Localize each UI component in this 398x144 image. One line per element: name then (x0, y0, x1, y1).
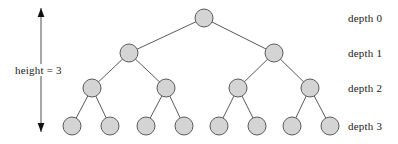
tree-edge (76, 95, 89, 119)
edge-layer (76, 21, 327, 119)
depth-label-1: depth 1 (348, 47, 382, 59)
tree-node (248, 117, 266, 135)
tree-edge (295, 95, 306, 119)
tree-edge (95, 95, 106, 119)
tree-edge (211, 22, 267, 50)
tree-edge (136, 21, 197, 49)
tree-edge (280, 59, 305, 83)
height-arrow-head-up (38, 8, 45, 17)
tree-edge (314, 95, 327, 119)
tree-node (229, 79, 247, 97)
tree-node (101, 117, 119, 135)
tree-edge (242, 95, 254, 119)
height-annotation-label: height = 3 (14, 64, 63, 76)
tree-node (83, 79, 101, 97)
tree-node (157, 79, 175, 97)
tree-edge (135, 59, 160, 83)
tree-node (120, 44, 138, 62)
binary-tree-figure: depth 0depth 1depth 2depth 3 height = 3 (0, 0, 398, 144)
tree-node (137, 117, 155, 135)
node-layer (63, 9, 339, 135)
depth-label-0: depth 0 (348, 12, 382, 24)
tree-edge (244, 59, 269, 83)
tree-node (63, 117, 81, 135)
tree-edge (98, 59, 123, 83)
tree-node (175, 117, 193, 135)
tree-node (283, 117, 301, 135)
tree-node (321, 117, 339, 135)
tree-edge (150, 95, 163, 119)
tree-node (195, 9, 213, 27)
depth-label-3: depth 3 (348, 120, 382, 132)
tree-edge (169, 95, 180, 119)
tree-node (301, 79, 319, 97)
tree-node (265, 44, 283, 62)
height-arrow-head-down (38, 123, 45, 132)
depth-label-2: depth 2 (348, 82, 382, 94)
tree-edge (223, 95, 235, 119)
tree-node (210, 117, 228, 135)
